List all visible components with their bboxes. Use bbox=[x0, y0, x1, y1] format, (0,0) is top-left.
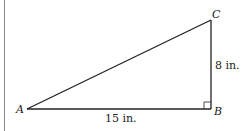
side-ac bbox=[27, 20, 211, 109]
vertex-a-label: A bbox=[16, 104, 24, 115]
vertex-b-label: B bbox=[214, 106, 222, 117]
right-angle-marker bbox=[204, 102, 211, 109]
vertex-c-label: C bbox=[212, 9, 220, 20]
side-ab-label: 15 in. bbox=[105, 113, 137, 124]
side-bc-label: 8 in. bbox=[215, 60, 240, 71]
